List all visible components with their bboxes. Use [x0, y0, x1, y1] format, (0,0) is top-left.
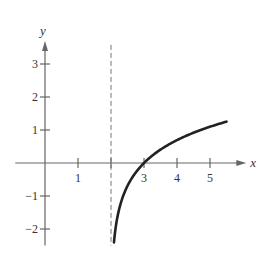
y-tick-label: −1 — [25, 189, 38, 203]
y-axis-label: y — [38, 23, 46, 38]
x-tick-label: 3 — [141, 171, 147, 185]
chart: 1345−2−1123 x y — [0, 0, 264, 260]
y-axis-arrow — [42, 41, 48, 51]
x-tick-label: 4 — [174, 171, 180, 185]
x-axis-label: x — [249, 155, 256, 170]
axes — [15, 41, 246, 246]
y-tick-label: 1 — [32, 123, 38, 137]
y-tick-label: 2 — [32, 90, 38, 104]
x-tick-label: 1 — [75, 171, 81, 185]
y-tick-label: −2 — [25, 222, 38, 236]
x-axis-arrow — [236, 160, 246, 166]
x-tick-label: 5 — [207, 171, 213, 185]
y-tick-label: 3 — [32, 57, 38, 71]
ticks — [40, 64, 210, 229]
